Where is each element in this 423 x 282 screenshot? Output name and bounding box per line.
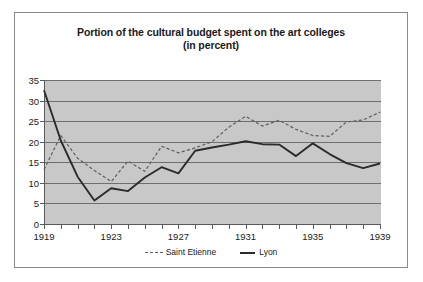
plot-area bbox=[44, 80, 381, 225]
y-tick-mark-10 bbox=[40, 183, 44, 184]
y-tick-mark-25 bbox=[40, 121, 44, 122]
gridline-25 bbox=[45, 121, 381, 122]
x-tick-1939 bbox=[380, 225, 381, 229]
x-tick-1920 bbox=[61, 225, 62, 229]
gridline-10 bbox=[45, 183, 381, 184]
x-tick-label-1931: 1931 bbox=[223, 231, 269, 242]
y-tick-label-0: 0 bbox=[0, 220, 39, 229]
y-tick-mark-30 bbox=[40, 101, 44, 102]
x-tick-label-1935: 1935 bbox=[290, 231, 336, 242]
x-tick-1922 bbox=[94, 225, 95, 229]
gridline-5 bbox=[45, 203, 381, 204]
gridline-20 bbox=[45, 142, 381, 143]
x-tick-1938 bbox=[363, 225, 364, 229]
y-tick-label-20: 20 bbox=[0, 138, 39, 147]
x-tick-1929 bbox=[212, 225, 213, 229]
legend-entry-lyon: Lyon bbox=[238, 247, 277, 257]
gridline-30 bbox=[45, 101, 381, 102]
y-tick-label-30: 30 bbox=[0, 97, 39, 106]
dashed-line-icon bbox=[145, 249, 163, 256]
x-tick-1927 bbox=[178, 225, 179, 229]
x-tick-1924 bbox=[128, 225, 129, 229]
x-tick-label-1919: 1919 bbox=[21, 231, 67, 242]
y-tick-label-10: 10 bbox=[0, 179, 39, 188]
x-tick-1919 bbox=[44, 225, 45, 229]
legend-entry-saint-etienne: Saint Etienne bbox=[145, 247, 217, 257]
x-tick-1936 bbox=[330, 225, 331, 229]
y-tick-label-35: 35 bbox=[0, 76, 39, 85]
x-tick-1933 bbox=[279, 225, 280, 229]
y-tick-label-5: 5 bbox=[0, 199, 39, 208]
x-tick-label-1927: 1927 bbox=[155, 231, 201, 242]
y-tick-label-15: 15 bbox=[0, 158, 39, 167]
x-tick-label-1923: 1923 bbox=[88, 231, 134, 242]
x-tick-1921 bbox=[78, 225, 79, 229]
x-tick-label-1939: 1939 bbox=[357, 231, 403, 242]
legend-label-saint-etienne: Saint Etienne bbox=[166, 247, 217, 257]
y-tick-mark-20 bbox=[40, 142, 44, 143]
y-tick-mark-15 bbox=[40, 162, 44, 163]
x-tick-1934 bbox=[296, 225, 297, 229]
legend-label-lyon: Lyon bbox=[259, 247, 277, 257]
x-tick-1928 bbox=[195, 225, 196, 229]
x-tick-1925 bbox=[145, 225, 146, 229]
chart-legend: Saint Etienne Lyon bbox=[14, 247, 408, 257]
y-tick-mark-5 bbox=[40, 203, 44, 204]
y-tick-label-25: 25 bbox=[0, 117, 39, 126]
y-tick-mark-35 bbox=[40, 80, 44, 81]
x-tick-1931 bbox=[246, 225, 247, 229]
x-tick-1923 bbox=[111, 225, 112, 229]
gridline-35 bbox=[45, 80, 381, 81]
x-tick-1935 bbox=[313, 225, 314, 229]
x-tick-1926 bbox=[162, 225, 163, 229]
x-tick-1932 bbox=[262, 225, 263, 229]
gridline-15 bbox=[45, 162, 381, 163]
solid-line-icon bbox=[238, 249, 256, 256]
x-tick-1937 bbox=[346, 225, 347, 229]
chart-figure: Portion of the cultural budget spent on … bbox=[0, 0, 423, 282]
plot-wrapper: 35 30 25 20 15 10 5 0 bbox=[0, 0, 423, 282]
x-tick-1930 bbox=[229, 225, 230, 229]
